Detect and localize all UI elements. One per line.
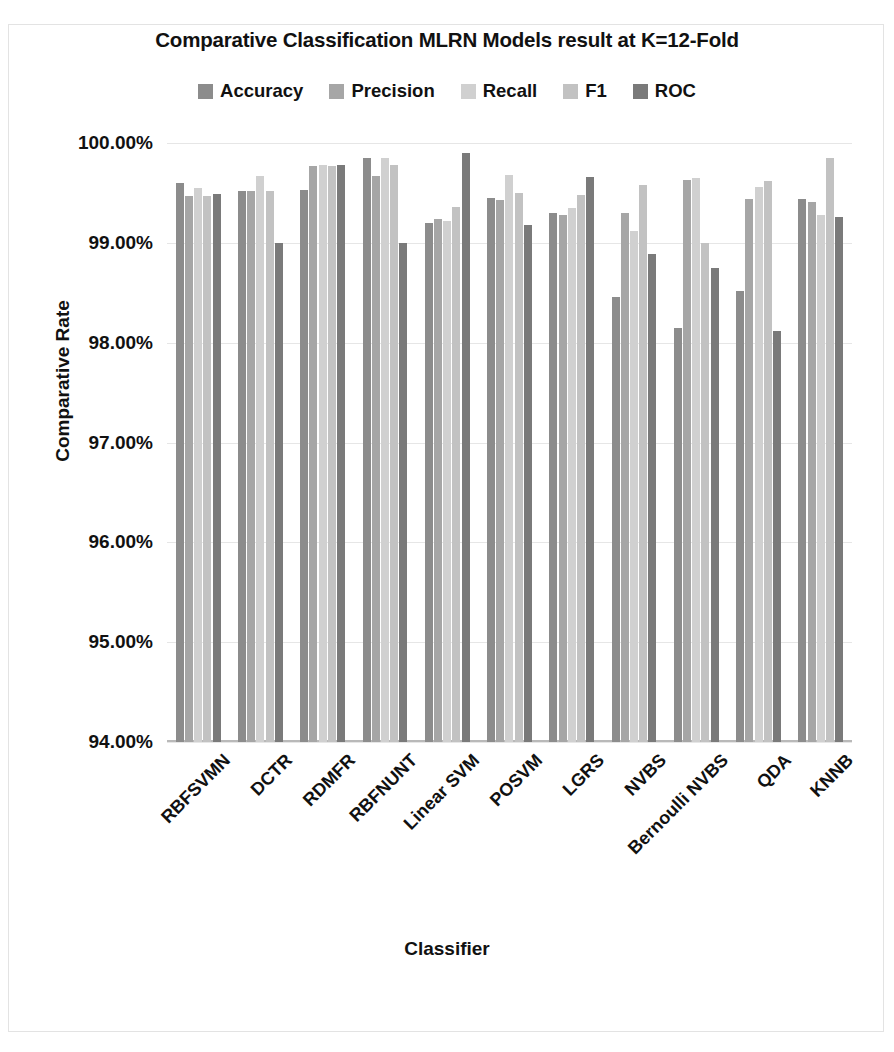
y-axis-tick-label: 94.00% xyxy=(33,731,153,753)
bar-group xyxy=(665,143,727,742)
bar xyxy=(683,180,691,742)
bar xyxy=(319,165,327,742)
x-axis-tick-label: RDMFR xyxy=(299,750,360,811)
bar xyxy=(266,191,274,742)
bar xyxy=(755,187,763,742)
bar xyxy=(372,176,380,742)
y-axis-tick-label: 96.00% xyxy=(33,531,153,553)
bar xyxy=(692,178,700,742)
bar xyxy=(328,166,336,742)
legend-swatch-icon xyxy=(563,84,578,99)
bar xyxy=(443,221,451,742)
bar xyxy=(612,297,620,742)
bar xyxy=(247,191,255,742)
bar xyxy=(487,198,495,742)
x-axis-tick-label: QDA xyxy=(752,750,795,793)
bar xyxy=(568,208,576,742)
bar xyxy=(452,207,460,742)
legend-entry-accuracy: Accuracy xyxy=(198,80,303,102)
x-axis-tick-label: NVBS xyxy=(621,750,671,800)
x-axis-tick-label: LGRS xyxy=(558,750,608,800)
legend-label: F1 xyxy=(585,80,607,102)
bar xyxy=(764,181,772,742)
bar xyxy=(399,243,407,742)
bar-group xyxy=(541,143,603,742)
bar-group xyxy=(229,143,291,742)
bar xyxy=(256,176,264,742)
bar xyxy=(577,195,585,742)
legend-entry-recall: Recall xyxy=(461,80,538,102)
chart-legend: AccuracyPrecisionRecallF1ROC xyxy=(0,80,894,102)
bar-group xyxy=(603,143,665,742)
bar xyxy=(363,158,371,742)
plot-inner xyxy=(167,143,852,742)
bar xyxy=(515,193,523,742)
bar xyxy=(835,217,843,742)
bar xyxy=(674,328,682,742)
bar xyxy=(300,190,308,742)
legend-swatch-icon xyxy=(633,84,648,99)
legend-swatch-icon xyxy=(461,84,476,99)
legend-label: ROC xyxy=(655,80,696,102)
x-axis-tick-label: RBFSVMN xyxy=(157,750,235,828)
legend-entry-roc: ROC xyxy=(633,80,696,102)
bar xyxy=(185,196,193,742)
bar xyxy=(808,202,816,742)
bar xyxy=(701,243,709,742)
bar xyxy=(390,165,398,742)
bar xyxy=(630,231,638,742)
bar xyxy=(586,177,594,742)
bar xyxy=(817,215,825,742)
bar xyxy=(275,243,283,742)
legend-swatch-icon xyxy=(329,84,344,99)
x-axis-tick-label: KNNB xyxy=(806,750,858,802)
bar xyxy=(773,331,781,742)
x-axis-tick-label: DCTR xyxy=(247,750,297,800)
y-axis-tick-layer: 100.00%99.00%98.00%97.00%96.00%95.00%94.… xyxy=(23,143,153,742)
bar xyxy=(745,199,753,742)
y-axis-tick-label: 97.00% xyxy=(33,432,153,454)
bar-group xyxy=(790,143,852,742)
bar xyxy=(213,194,221,742)
bar xyxy=(639,185,647,742)
bar xyxy=(309,166,317,742)
bar-group xyxy=(167,143,229,742)
y-axis-tick-label: 99.00% xyxy=(33,232,153,254)
bar xyxy=(621,213,629,742)
bar xyxy=(648,254,656,742)
legend-entry-f1: F1 xyxy=(563,80,607,102)
bar xyxy=(711,268,719,742)
bar xyxy=(337,165,345,742)
bar xyxy=(425,223,433,742)
bar xyxy=(736,291,744,742)
bar xyxy=(203,196,211,742)
bar xyxy=(496,200,504,742)
bar xyxy=(826,158,834,742)
bar xyxy=(549,213,557,742)
bar xyxy=(462,153,470,742)
y-axis-tick-label: 98.00% xyxy=(33,332,153,354)
x-axis-title: Classifier xyxy=(0,938,894,960)
bar-group xyxy=(416,143,478,742)
legend-label: Accuracy xyxy=(220,80,303,102)
bar-group xyxy=(727,143,789,742)
plot-area xyxy=(167,143,852,742)
bar xyxy=(559,215,567,742)
y-axis-title: Comparative Rate xyxy=(52,256,74,506)
bar-group xyxy=(354,143,416,742)
bar-group xyxy=(478,143,540,742)
bar xyxy=(381,158,389,742)
bar xyxy=(524,225,532,742)
legend-entry-precision: Precision xyxy=(329,80,434,102)
bar xyxy=(176,183,184,742)
y-axis-tick-label: 100.00% xyxy=(33,132,153,154)
chart-title: Comparative Classification MLRN Models r… xyxy=(0,28,894,52)
bar xyxy=(434,219,442,742)
bar xyxy=(194,188,202,742)
legend-label: Precision xyxy=(351,80,434,102)
legend-swatch-icon xyxy=(198,84,213,99)
bar xyxy=(505,175,513,742)
bar xyxy=(798,199,806,742)
x-axis-tick-layer: RBFSVMNDCTRRDMFRRBFNUNTLinear SVMPOSVMLG… xyxy=(167,742,852,932)
legend-label: Recall xyxy=(483,80,538,102)
